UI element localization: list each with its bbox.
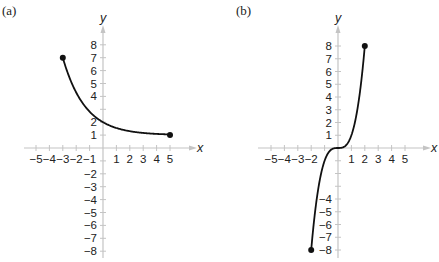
x-tick-label: 1 — [113, 153, 119, 165]
x-tick-label: 4 — [388, 153, 395, 165]
chart-a: −5−4−3−2−112345−8−7−6−5−4−3−21245678xy — [24, 11, 204, 258]
y-tick-label: −5 — [319, 206, 332, 218]
y-tick-label: −7 — [84, 232, 97, 244]
endpoint-dot — [167, 132, 173, 138]
x-tick-label: 2 — [362, 153, 368, 165]
endpoint-dot — [362, 43, 368, 49]
y-tick-label: −6 — [319, 219, 332, 231]
x-tick-label: 5 — [402, 153, 408, 165]
y-tick-label: 5 — [326, 78, 332, 90]
y-tick-label: −5 — [84, 207, 97, 219]
y-tick-label: −8 — [319, 244, 332, 256]
y-axis-label: y — [334, 11, 342, 25]
y-tick-label: −3 — [84, 181, 97, 193]
x-tick-label: −3 — [291, 153, 304, 165]
y-tick-label: −8 — [84, 245, 97, 257]
x-tick-label: −3 — [56, 153, 69, 165]
y-tick-label: 1 — [326, 129, 332, 141]
y-axis-arrow-icon — [101, 25, 106, 33]
endpoint-dot — [308, 247, 314, 253]
x-axis-arrow-icon — [423, 146, 431, 151]
x-tick-label: −2 — [305, 153, 318, 165]
y-tick-label: 5 — [91, 78, 97, 90]
y-axis-label: y — [99, 11, 107, 25]
y-tick-label: −2 — [84, 168, 97, 180]
x-tick-label: 3 — [140, 153, 146, 165]
x-tick-label: 4 — [153, 153, 160, 165]
y-axis-arrow-icon — [336, 25, 341, 33]
y-tick-label: 6 — [91, 65, 97, 77]
x-tick-label: 5 — [167, 153, 173, 165]
y-tick-label: 2 — [326, 117, 332, 129]
charts-canvas: −5−4−3−2−112345−8−7−6−5−4−3−21245678xy−5… — [0, 0, 439, 262]
y-tick-label: −7 — [319, 231, 332, 243]
x-tick-label: −4 — [278, 153, 292, 165]
x-tick-label: −2 — [70, 153, 83, 165]
function-curve — [63, 58, 170, 135]
x-axis-label: x — [196, 141, 204, 155]
y-tick-label: 4 — [91, 90, 98, 102]
x-tick-label: −5 — [264, 153, 277, 165]
chart-b: −5−4−3−212345−8−7−6−5−412345678xy — [258, 11, 438, 258]
x-tick-label: −4 — [43, 153, 57, 165]
y-tick-label: 4 — [326, 91, 333, 103]
y-tick-label: 6 — [326, 66, 332, 78]
x-tick-label: 2 — [127, 153, 133, 165]
x-tick-label: −1 — [83, 153, 96, 165]
y-tick-label: 7 — [91, 52, 97, 64]
y-tick-label: −6 — [84, 219, 97, 231]
y-tick-label: 1 — [91, 129, 97, 141]
x-tick-label: −5 — [29, 153, 42, 165]
endpoint-dot — [60, 55, 66, 61]
y-tick-label: −4 — [319, 193, 333, 205]
y-tick-label: 8 — [91, 39, 97, 51]
x-axis-label: x — [430, 141, 438, 155]
y-tick-label: 7 — [326, 53, 332, 65]
y-tick-label: 8 — [326, 40, 332, 52]
y-tick-label: 3 — [326, 104, 332, 116]
x-tick-label: 1 — [348, 153, 354, 165]
x-tick-label: 3 — [375, 153, 381, 165]
x-axis-arrow-icon — [189, 146, 197, 151]
y-tick-label: −4 — [84, 194, 98, 206]
